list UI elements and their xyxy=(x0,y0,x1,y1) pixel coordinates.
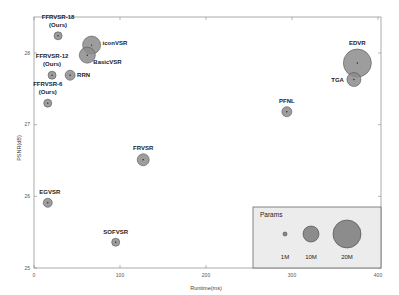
point-label: BasicVSR xyxy=(93,59,122,65)
point-label: SOFVSR xyxy=(103,229,128,235)
x-tick-label: 300 xyxy=(288,272,297,278)
legend-label: 20M xyxy=(341,254,353,260)
bubble-center-dot xyxy=(57,35,58,36)
bubble-chart: 010020030040025262728 FFRVSR-18(Ours)ico… xyxy=(0,0,399,295)
x-tick-label: 100 xyxy=(116,272,125,278)
point-sublabel: (Ours) xyxy=(43,61,61,67)
point-sublabel: (Ours) xyxy=(49,22,67,28)
bubble-center-dot xyxy=(51,75,52,76)
point-label: FFRVSR-6 xyxy=(33,81,63,87)
y-tick-label: 28 xyxy=(24,50,30,56)
bubble-center-dot xyxy=(353,79,354,80)
x-tick-label: 0 xyxy=(33,272,36,278)
bubble-center-dot xyxy=(115,242,116,243)
point-label: RRN xyxy=(77,72,90,78)
x-tick-label: 400 xyxy=(374,272,383,278)
point-label: EGVSR xyxy=(39,189,61,195)
y-tick-label: 25 xyxy=(24,265,30,271)
legend-bubble xyxy=(303,226,319,242)
point-label: iconVSR xyxy=(103,40,128,46)
bubble-center-dot xyxy=(143,159,144,160)
point-label: FFRVSR-18 xyxy=(42,14,75,20)
y-tick-label: 27 xyxy=(24,121,30,127)
y-tick-label: 26 xyxy=(24,193,30,199)
legend-label: 1M xyxy=(281,254,289,260)
bubble-center-dot xyxy=(47,102,48,103)
bubble-center-dot xyxy=(357,62,358,63)
x-tick-label: 200 xyxy=(202,272,211,278)
bubble-center-dot xyxy=(47,202,48,203)
legend-label: 10M xyxy=(305,254,317,260)
point-label: FRVSR xyxy=(133,145,154,151)
y-axis-label: PSNR(dB) xyxy=(16,135,22,161)
point-label: PFNL xyxy=(279,98,295,104)
legend-bubble xyxy=(283,232,287,236)
x-axis-label: Runtime(ms) xyxy=(190,285,222,291)
legend-title: Params xyxy=(260,211,283,218)
legend: Params1M10M20M xyxy=(253,207,381,268)
bubble-center-dot xyxy=(87,54,88,55)
point-label: EDVR xyxy=(349,40,366,46)
point-label: TGA xyxy=(331,77,344,83)
bubble-center-dot xyxy=(286,111,287,112)
point-sublabel: (Ours) xyxy=(39,89,57,95)
bubble-center-dot xyxy=(69,75,70,76)
legend-bubble xyxy=(333,220,361,248)
bubble-center-dot xyxy=(91,44,92,45)
point-label: FFRVSR-12 xyxy=(36,53,69,59)
